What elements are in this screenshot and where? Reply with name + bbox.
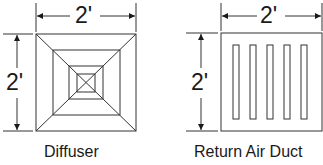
return-air-duct-drawing xyxy=(186,3,322,131)
diffuser-drawing xyxy=(3,3,136,131)
return-slot-2 xyxy=(250,45,256,119)
return-slot-1 xyxy=(233,45,239,119)
return-width-label: 2' xyxy=(260,4,277,27)
diffuser-height-label: 2' xyxy=(6,71,23,94)
return-height-label: 2' xyxy=(191,71,208,94)
return-slot-3 xyxy=(267,45,273,119)
return-slot-4 xyxy=(284,45,290,119)
return-air-duct-caption: Return Air Duct xyxy=(194,144,302,160)
diffuser-width-label: 2' xyxy=(75,4,92,27)
return-slot-5 xyxy=(301,45,307,119)
diffuser-caption: Diffuser xyxy=(44,144,99,160)
